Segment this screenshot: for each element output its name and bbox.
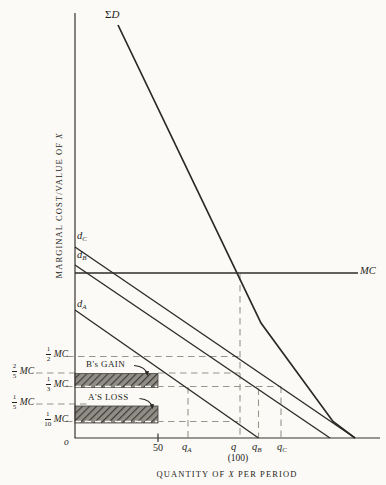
x-label-100: (100) bbox=[220, 453, 256, 463]
y-axis-title: MARGINAL COST/VALUE OF X bbox=[55, 139, 68, 279]
d-c-curve-label: dC bbox=[77, 230, 87, 244]
a-loss-region bbox=[75, 406, 158, 423]
origin-label: o bbox=[64, 437, 69, 447]
x-label-q-b: qB bbox=[252, 441, 262, 455]
y-label-half-mc: 12 MC bbox=[36, 346, 68, 362]
x-axis-title: QUANTITY OF X PER PERIOD bbox=[147, 470, 307, 479]
b-gain-annotation: B's GAIN bbox=[86, 360, 125, 370]
figure-container: MARGINAL COST/VALUE OF X QUANTITY OF X P… bbox=[0, 0, 386, 485]
d-a-curve-label: dA bbox=[77, 298, 87, 312]
a-loss-annotation: A'S LOSS bbox=[88, 393, 129, 403]
sigma-d-curve-label: ΣD bbox=[105, 8, 119, 20]
y-label-two-fifths-mc: 25 MC bbox=[1, 363, 34, 379]
b-gain-region bbox=[75, 374, 158, 388]
x-label-q-a: qA bbox=[182, 441, 192, 455]
d-b-curve-label: dB bbox=[77, 249, 87, 263]
y-label-third-mc: 13 MC bbox=[36, 376, 68, 392]
x-label-q-c: qC bbox=[277, 441, 287, 455]
mc-curve-label: MC bbox=[360, 265, 376, 277]
y-label-fifth-mc: 15 MC bbox=[1, 394, 34, 410]
y-label-tenth-mc: 110 MC bbox=[31, 411, 68, 427]
x-label-50: 50 bbox=[149, 442, 167, 453]
